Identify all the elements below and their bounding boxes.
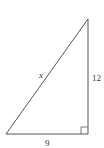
- horizontal-leg-label: 9: [45, 138, 50, 148]
- vertical-leg-label: 12: [92, 73, 101, 83]
- triangle-diagram: x 12 9: [0, 0, 104, 148]
- right-triangle: [6, 19, 88, 134]
- right-angle-marker: [81, 127, 88, 134]
- hypotenuse-label: x: [38, 70, 43, 80]
